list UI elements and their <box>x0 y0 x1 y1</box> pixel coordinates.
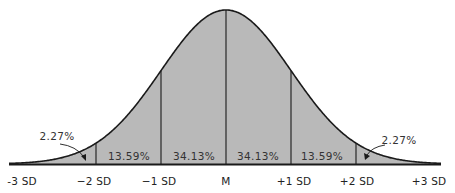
region-label-mean-plus1: 34.13% <box>237 150 279 162</box>
normal-curve-diagram <box>0 0 455 193</box>
axis-label-plus3-sd: +3 SD <box>412 175 447 187</box>
axis-label-plus2-sd: +2 SD <box>340 175 375 187</box>
axis-label-minus3-sd: -3 SD <box>7 175 37 187</box>
axis-label-mean: M <box>221 175 230 187</box>
region-label-minus1-mean: 34.13% <box>173 150 215 162</box>
region-label-right-tail: 2.27% <box>382 134 417 146</box>
axis-label-minus2-sd: −2 SD <box>77 175 112 187</box>
region-label-minus2-minus1: 13.59% <box>108 150 150 162</box>
region-label-left-tail: 2.27% <box>40 130 75 142</box>
axis-label-plus1-sd: +1 SD <box>277 175 312 187</box>
axis-label-minus1-sd: −1 SD <box>142 175 177 187</box>
region-label-plus1-plus2: 13.59% <box>301 150 343 162</box>
